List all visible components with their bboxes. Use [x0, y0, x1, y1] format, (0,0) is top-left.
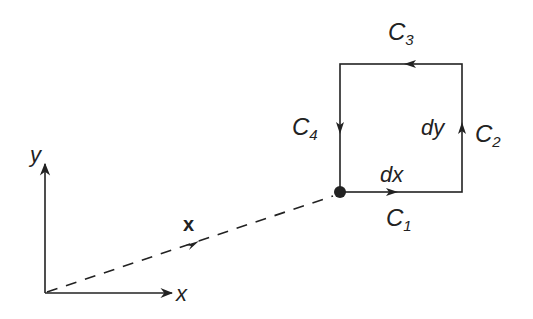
label-c3: C3 — [388, 18, 414, 48]
x-axis-label: x — [175, 281, 188, 306]
label-dy: dy — [421, 115, 446, 140]
position-vector-label: x — [183, 213, 194, 235]
label-c1: C1 — [386, 204, 412, 234]
y-axis-label: y — [28, 142, 43, 167]
position-vector: x — [47, 196, 333, 292]
start-point — [334, 186, 346, 198]
coordinate-axes: y x — [28, 142, 188, 306]
contour-diagram: y x x dx dy C1 C2 C3 C4 — [0, 0, 533, 319]
label-c4: C4 — [292, 113, 318, 143]
label-dx: dx — [380, 162, 404, 187]
label-c2: C2 — [475, 120, 501, 150]
